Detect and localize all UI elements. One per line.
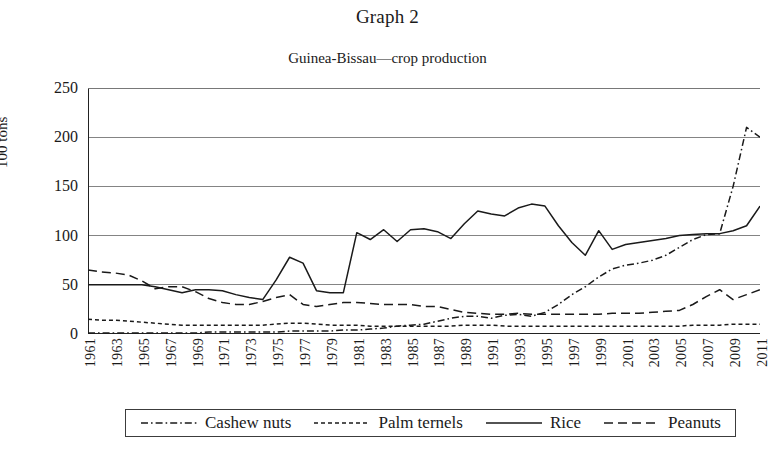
y-tick-250: 250: [54, 79, 78, 97]
x-tick-2001: 2001: [621, 338, 637, 367]
plot-svg: [88, 88, 760, 334]
plot-area: [88, 88, 760, 334]
legend-swatch-dash-dot-icon: [140, 418, 198, 428]
x-tick-1965: 1965: [137, 338, 153, 367]
x-tick-1993: 1993: [513, 338, 529, 367]
legend-label: Palm ternels: [378, 414, 463, 431]
legend-item-palm-ternels[interactable]: Palm ternels: [313, 414, 463, 431]
x-tick-1961: 1961: [83, 338, 99, 367]
chart-legend: Cashew nutsPalm ternelsRicePeanuts: [125, 409, 736, 437]
x-axis-tick-labels: 1961196319651967196919711973197519771979…: [88, 338, 760, 400]
y-tick-200: 200: [54, 128, 78, 146]
x-tick-1967: 1967: [164, 338, 180, 367]
x-tick-1981: 1981: [352, 338, 368, 367]
y-tick-50: 50: [62, 276, 78, 294]
legend-swatch-solid-icon: [485, 418, 543, 428]
x-tick-2005: 2005: [674, 338, 690, 367]
x-tick-1991: 1991: [486, 338, 502, 367]
x-tick-1969: 1969: [191, 338, 207, 367]
legend-label: Peanuts: [668, 414, 721, 431]
x-tick-1987: 1987: [432, 338, 448, 367]
x-tick-2009: 2009: [728, 338, 744, 367]
x-tick-1989: 1989: [459, 338, 475, 367]
legend-label: Rice: [550, 414, 581, 431]
y-tick-100: 100: [54, 227, 78, 245]
x-tick-2007: 2007: [701, 338, 717, 367]
x-tick-1973: 1973: [244, 338, 260, 367]
legend-item-rice[interactable]: Rice: [485, 414, 581, 431]
graph-title: Graph 2: [0, 6, 775, 28]
x-tick-1979: 1979: [325, 338, 341, 367]
chart-subtitle: Guinea-Bissau—crop production: [0, 50, 775, 67]
legend-item-cashew-nuts[interactable]: Cashew nuts: [140, 414, 291, 431]
figure-container: Graph 2 Guinea-Bissau—crop production 10…: [0, 0, 775, 455]
y-tick-0: 0: [70, 325, 78, 343]
legend-swatch-long-dash-icon: [603, 418, 661, 428]
y-axis-tick-labels: 050100150200250: [0, 0, 88, 334]
x-tick-1997: 1997: [567, 338, 583, 367]
x-tick-1963: 1963: [110, 338, 126, 367]
x-tick-1971: 1971: [217, 338, 233, 367]
legend-swatch-short-dash-icon: [313, 418, 371, 428]
x-tick-1983: 1983: [379, 338, 395, 367]
x-tick-2011: 2011: [755, 338, 771, 367]
legend-item-peanuts[interactable]: Peanuts: [603, 414, 721, 431]
x-tick-1975: 1975: [271, 338, 287, 367]
x-tick-1977: 1977: [298, 338, 314, 367]
series-line-cashew-nuts: [88, 127, 760, 333]
x-tick-1985: 1985: [406, 338, 422, 367]
series-line-palm-ternels: [88, 319, 760, 326]
legend-label: Cashew nuts: [205, 414, 291, 431]
x-tick-2003: 2003: [647, 338, 663, 367]
series-line-peanuts: [88, 270, 760, 314]
x-tick-1999: 1999: [594, 338, 610, 367]
x-tick-1995: 1995: [540, 338, 556, 367]
y-tick-150: 150: [54, 177, 78, 195]
